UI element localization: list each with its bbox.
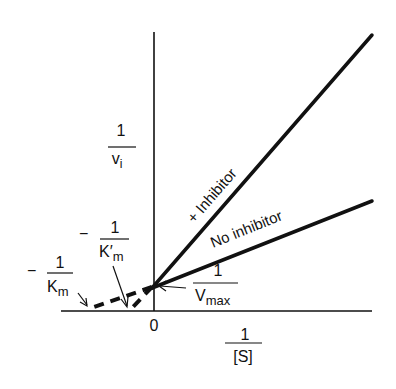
inhibitor-line	[152, 35, 372, 288]
origin-label: 0	[150, 317, 159, 334]
vmax-arrow-shaft	[160, 286, 186, 288]
vmax-denominator: Vmax	[195, 287, 231, 308]
km-prime-denominator: K′m	[99, 243, 124, 264]
x-label-denominator: [S]	[233, 348, 253, 365]
km-denominator: Km	[47, 278, 69, 299]
km-prime-sign: −	[79, 225, 88, 242]
y-label-denominator: vi	[112, 150, 123, 171]
km-arrow-head	[80, 298, 87, 306]
y-label-numerator: 1	[117, 122, 126, 139]
vmax-numerator: 1	[214, 262, 223, 279]
inhibitor-extrapolation	[130, 287, 152, 310]
lineweaver-burk-diagram: 1 vi 1 [S] 0 + Inhibitor No inhibitor − …	[0, 0, 396, 389]
km-prime-numerator: 1	[111, 219, 120, 236]
km-numerator: 1	[56, 254, 65, 271]
no-inhibitor-extrapolation	[88, 287, 152, 309]
km-sign: −	[27, 262, 36, 279]
x-label-numerator: 1	[241, 326, 250, 343]
